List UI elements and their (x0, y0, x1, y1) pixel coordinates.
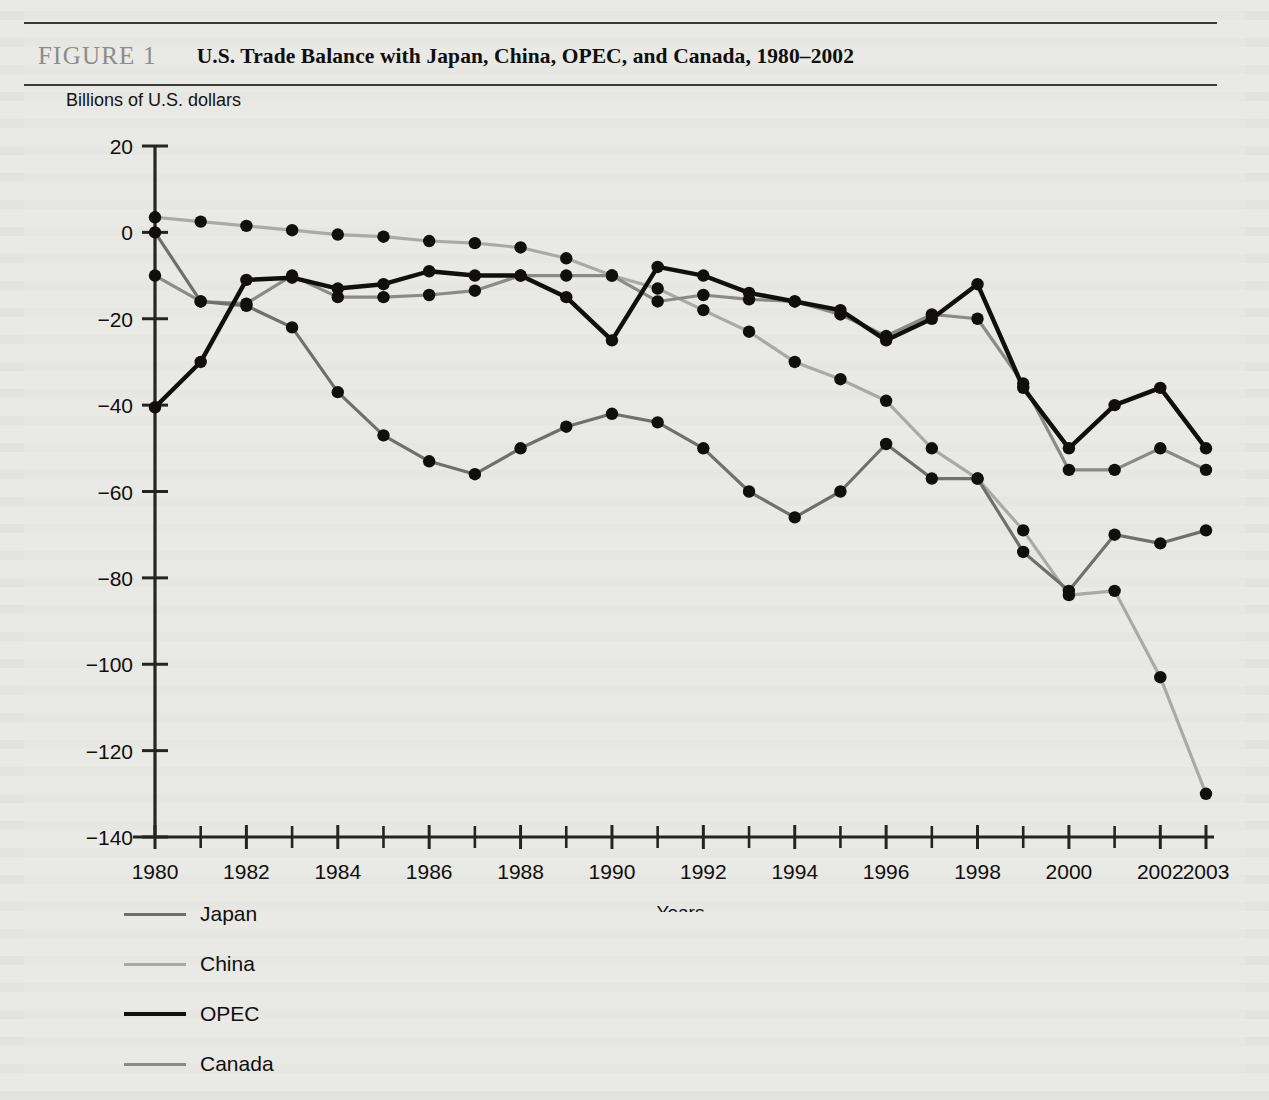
data-point (560, 421, 572, 433)
data-point (149, 401, 161, 413)
x-tick-label: 1980 (132, 860, 179, 883)
data-point (514, 442, 526, 454)
data-point (743, 287, 755, 299)
data-point (332, 386, 344, 398)
data-point (286, 321, 298, 333)
data-point (469, 269, 481, 281)
figure-card: FIGURE 1 U.S. Trade Balance with Japan, … (24, 12, 1245, 1088)
data-point (469, 468, 481, 480)
data-point (286, 224, 298, 236)
y-tick-label: 0 (121, 221, 133, 244)
data-point (149, 226, 161, 238)
data-point (377, 291, 389, 303)
legend-swatch-japan (124, 913, 186, 916)
y-tick-label: 20 (110, 135, 133, 158)
data-point (514, 269, 526, 281)
y-tick-label: −60 (97, 481, 133, 504)
data-point (1200, 788, 1212, 800)
legend-swatch-canada (124, 1063, 186, 1066)
data-point (469, 237, 481, 249)
y-tick-label: −40 (97, 394, 133, 417)
data-point (240, 274, 252, 286)
x-tick-label: 2002 (1137, 860, 1184, 883)
data-point (1154, 442, 1166, 454)
legend-label-japan: Japan (200, 902, 257, 926)
data-point (926, 313, 938, 325)
y-tick-label: −20 (97, 308, 133, 331)
series-group (149, 211, 1212, 800)
data-point (743, 326, 755, 338)
x-tick-label: 2003 (1183, 860, 1230, 883)
data-point (1063, 464, 1075, 476)
y-tick-label: −80 (97, 567, 133, 590)
data-point (1108, 464, 1120, 476)
data-point (1063, 585, 1075, 597)
x-tick-label: 1984 (314, 860, 361, 883)
data-point (606, 269, 618, 281)
data-point (789, 356, 801, 368)
data-point (1154, 671, 1166, 683)
data-point (332, 228, 344, 240)
legend-item-canada: Canada (124, 1052, 274, 1076)
data-point (789, 511, 801, 523)
data-point (1017, 546, 1029, 558)
data-point (834, 485, 846, 497)
data-point (377, 429, 389, 441)
axis-lines (133, 145, 1214, 837)
data-point (1017, 382, 1029, 394)
data-point (240, 300, 252, 312)
data-point (332, 282, 344, 294)
legend-label-canada: Canada (200, 1052, 274, 1076)
legend-label-china: China (200, 952, 255, 976)
legend-item-japan: Japan (124, 902, 274, 926)
data-point (194, 215, 206, 227)
data-point (971, 313, 983, 325)
data-point (240, 220, 252, 232)
x-tick-label: 1992 (680, 860, 727, 883)
data-point (194, 295, 206, 307)
data-point (423, 235, 435, 247)
data-point (1108, 528, 1120, 540)
data-point (971, 472, 983, 484)
data-point (377, 278, 389, 290)
y-tick-label: −140 (86, 826, 133, 849)
data-point (194, 356, 206, 368)
x-tick-labels: 1980198219841986198819901992199419961998… (132, 860, 1230, 883)
data-point (606, 408, 618, 420)
data-point (149, 211, 161, 223)
x-axis-title-text: Years (657, 902, 705, 912)
y-tick-label: −120 (86, 740, 133, 763)
data-point (926, 472, 938, 484)
x-tick-label: 1990 (589, 860, 636, 883)
data-point (1108, 585, 1120, 597)
data-point (149, 269, 161, 281)
x-tick-label: 2000 (1046, 860, 1093, 883)
data-point (651, 295, 663, 307)
data-point (697, 304, 709, 316)
data-point (743, 485, 755, 497)
data-point (1200, 464, 1212, 476)
data-point (971, 278, 983, 290)
data-point (1200, 524, 1212, 536)
data-point (423, 289, 435, 301)
data-point (560, 291, 572, 303)
line-chart: 200−20−40−60−80−100−120−140 198019821984… (24, 12, 1245, 912)
data-point (1017, 524, 1029, 536)
series-opec (149, 261, 1212, 455)
data-point (560, 269, 572, 281)
chart-legend: Japan China OPEC Canada (124, 902, 274, 1076)
data-point (651, 416, 663, 428)
legend-label-opec: OPEC (200, 1002, 260, 1026)
data-point (377, 230, 389, 242)
data-point (834, 304, 846, 316)
data-point (1154, 382, 1166, 394)
data-point (697, 442, 709, 454)
legend-swatch-china (124, 963, 186, 966)
data-point (286, 272, 298, 284)
data-point (651, 261, 663, 273)
data-point (514, 241, 526, 253)
data-point (789, 295, 801, 307)
y-tick-labels: 200−20−40−60−80−100−120−140 (86, 135, 133, 849)
x-axis-title: Years (657, 902, 705, 912)
data-point (697, 269, 709, 281)
